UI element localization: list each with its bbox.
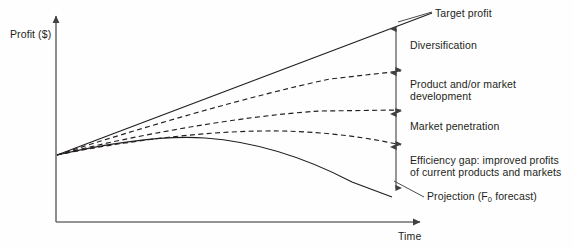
annotation-product-market-development-line1: Product and/or market <box>410 78 516 90</box>
curve-product-market-ceiling <box>57 110 401 155</box>
curves-group <box>57 13 432 197</box>
annotation-efficiency-gap-line2: of current products and markets <box>410 166 561 178</box>
axes-group <box>56 16 420 222</box>
annotation-projection-prefix: Projection (F <box>427 190 488 202</box>
y-axis-label: Profit ($) <box>10 28 51 40</box>
curve-target-profit <box>57 13 432 155</box>
x-axis-label: Time <box>398 230 421 242</box>
annotation-product-market-development-line2: development <box>410 90 471 102</box>
leader-line-target-profit <box>398 12 432 22</box>
leader-line-projection <box>394 181 424 197</box>
annotation-target-profit: Target profit <box>435 7 492 19</box>
annotation-projection-suffix: forecast) <box>492 190 537 202</box>
annotation-efficiency-gap-line1: Efficiency gap: improved profits <box>410 154 559 166</box>
annotation-projection-subscript: 0 <box>488 195 492 204</box>
ansoff-gap-analysis-figure: Profit ($) Time Target profit Diversific… <box>0 0 574 248</box>
annotation-diversification: Diversification <box>410 39 477 51</box>
annotation-market-penetration: Market penetration <box>410 120 499 132</box>
annotation-projection: Projection (F0 forecast) <box>427 190 537 204</box>
